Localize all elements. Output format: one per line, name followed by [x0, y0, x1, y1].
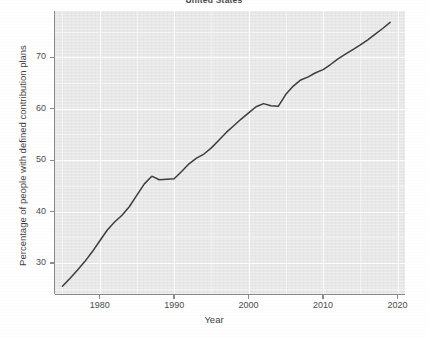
x-axis-tick-label: 1980	[77, 300, 123, 310]
x-axis-tick-mark	[99, 295, 100, 299]
y-axis-tick-mark	[50, 211, 54, 212]
x-axis-tick-mark	[248, 295, 249, 299]
x-axis-tick-mark	[322, 295, 323, 299]
series-line-path	[62, 22, 390, 286]
series-line-svg	[55, 11, 405, 294]
chart-container: United States 3040506070 198019902000201…	[0, 0, 428, 337]
chart-title: United States	[0, 0, 428, 5]
x-axis-tick-mark	[173, 295, 174, 299]
plot-panel	[55, 11, 405, 294]
y-axis-tick-mark	[50, 108, 54, 109]
y-axis-line	[54, 11, 55, 294]
y-axis-title: Percentage of people with defined contri…	[17, 16, 28, 296]
x-axis-title: Year	[0, 314, 428, 325]
x-axis-tick-label: 2010	[300, 300, 346, 310]
y-axis-tick-mark	[50, 160, 54, 161]
x-axis-tick-mark	[397, 295, 398, 299]
y-axis-tick-mark	[50, 262, 54, 263]
x-axis-line	[55, 294, 405, 295]
y-axis-tick-mark	[50, 57, 54, 58]
x-axis-tick-label: 2020	[375, 300, 421, 310]
x-axis-tick-label: 2000	[226, 300, 272, 310]
x-axis-tick-label: 1990	[151, 300, 197, 310]
